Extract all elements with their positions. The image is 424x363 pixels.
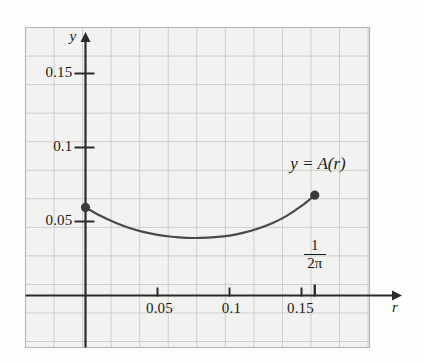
- y-tick-label-0.05: 0.05: [45, 212, 72, 229]
- special-tick-label-one-over-two-pi: 1 2π: [304, 238, 326, 272]
- y-axis-label: y: [70, 28, 77, 45]
- x-tick-label-0.1: 0.1: [222, 300, 241, 317]
- curve-label: y = A(r): [290, 154, 346, 174]
- figure-container: 0.15 0.1 0.05 0.05 0.1 0.15 y r y = A(r)…: [0, 0, 424, 363]
- x-tick-label-0.05: 0.05: [146, 300, 173, 317]
- y-tick-label-0.1: 0.1: [53, 138, 72, 155]
- y-tick-label-0.15: 0.15: [45, 64, 72, 81]
- plot-background: [26, 28, 370, 348]
- x-tick-label-0.15: 0.15: [287, 300, 314, 317]
- fraction-numerator: 1: [304, 238, 326, 253]
- fraction-denominator: 2π: [304, 256, 326, 271]
- x-axis-label: r: [392, 299, 398, 316]
- graph-canvas: [0, 0, 424, 363]
